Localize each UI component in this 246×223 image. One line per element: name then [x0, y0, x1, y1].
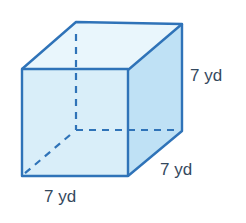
front-face	[22, 69, 128, 176]
height-label: 7 yd	[190, 66, 222, 85]
cube-diagram: 7 yd 7 yd 7 yd	[0, 0, 246, 223]
width-label: 7 yd	[44, 187, 76, 206]
depth-label: 7 yd	[160, 160, 192, 179]
